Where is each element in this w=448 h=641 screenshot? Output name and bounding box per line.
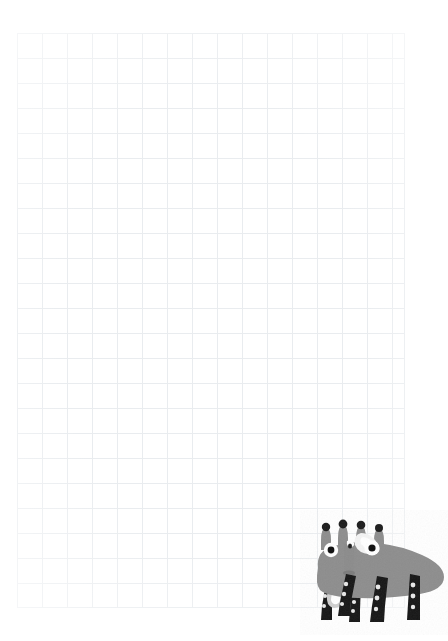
screenshot-canvas — [0, 0, 448, 641]
gray-cartoon-animal — [300, 510, 448, 635]
